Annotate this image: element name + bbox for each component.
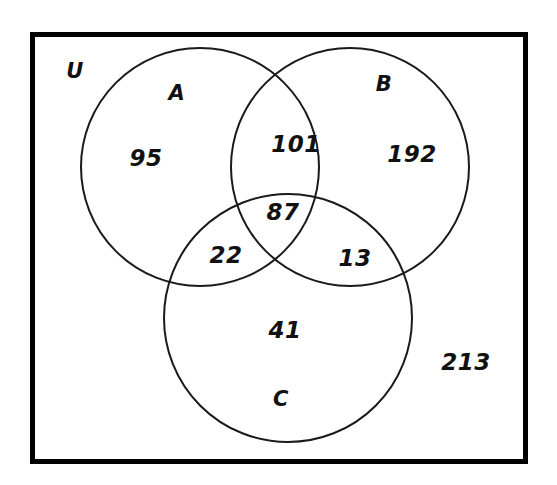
region-count-a-and-b-only: 101 <box>271 133 321 156</box>
set-label-c: C <box>273 389 289 410</box>
region-count-c-only: 41 <box>268 319 301 342</box>
set-label-a: A <box>169 83 186 104</box>
region-count-outside-all: 213 <box>441 351 491 374</box>
universe-label: U <box>66 61 84 82</box>
venn-diagram: U A B C 95 101 192 87 22 13 41 213 <box>0 0 557 485</box>
region-count-b-only: 192 <box>387 143 437 166</box>
region-count-b-and-c-only: 13 <box>338 247 371 270</box>
set-label-b: B <box>376 74 393 95</box>
region-count-a-only: 95 <box>129 147 162 170</box>
region-count-a-and-b-and-c: 87 <box>266 201 299 224</box>
region-count-a-and-c-only: 22 <box>209 244 242 267</box>
